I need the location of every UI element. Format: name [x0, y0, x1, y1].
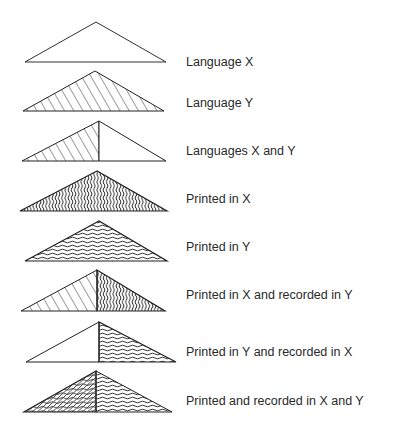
triangle-language-y: [23, 71, 164, 111]
triangle-printed-in-x: [20, 171, 167, 211]
label-language-x: Language X: [186, 55, 253, 69]
label-printed-x-recorded-y: Printed in X and recorded in Y: [186, 288, 353, 302]
triangle-printed-x-recorded-y: [21, 270, 165, 311]
triangle-language-x: [25, 22, 166, 62]
triangle-printed-recorded-x-and-y: [24, 371, 172, 412]
label-printed-in-x: Printed in X: [186, 192, 251, 206]
label-languages-x-and-y: Languages X and Y: [186, 144, 296, 158]
label-language-y: Language Y: [186, 96, 253, 110]
triangle-languages-x-and-y: [22, 121, 166, 161]
triangle-printed-in-y: [25, 221, 167, 261]
label-printed-in-y: Printed in Y: [186, 240, 250, 254]
triangle-printed-y-recorded-x: [26, 322, 176, 362]
label-printed-recorded-x-and-y: Printed and recorded in X and Y: [186, 394, 364, 408]
label-printed-y-recorded-x: Printed in Y and recorded in X: [186, 345, 352, 359]
